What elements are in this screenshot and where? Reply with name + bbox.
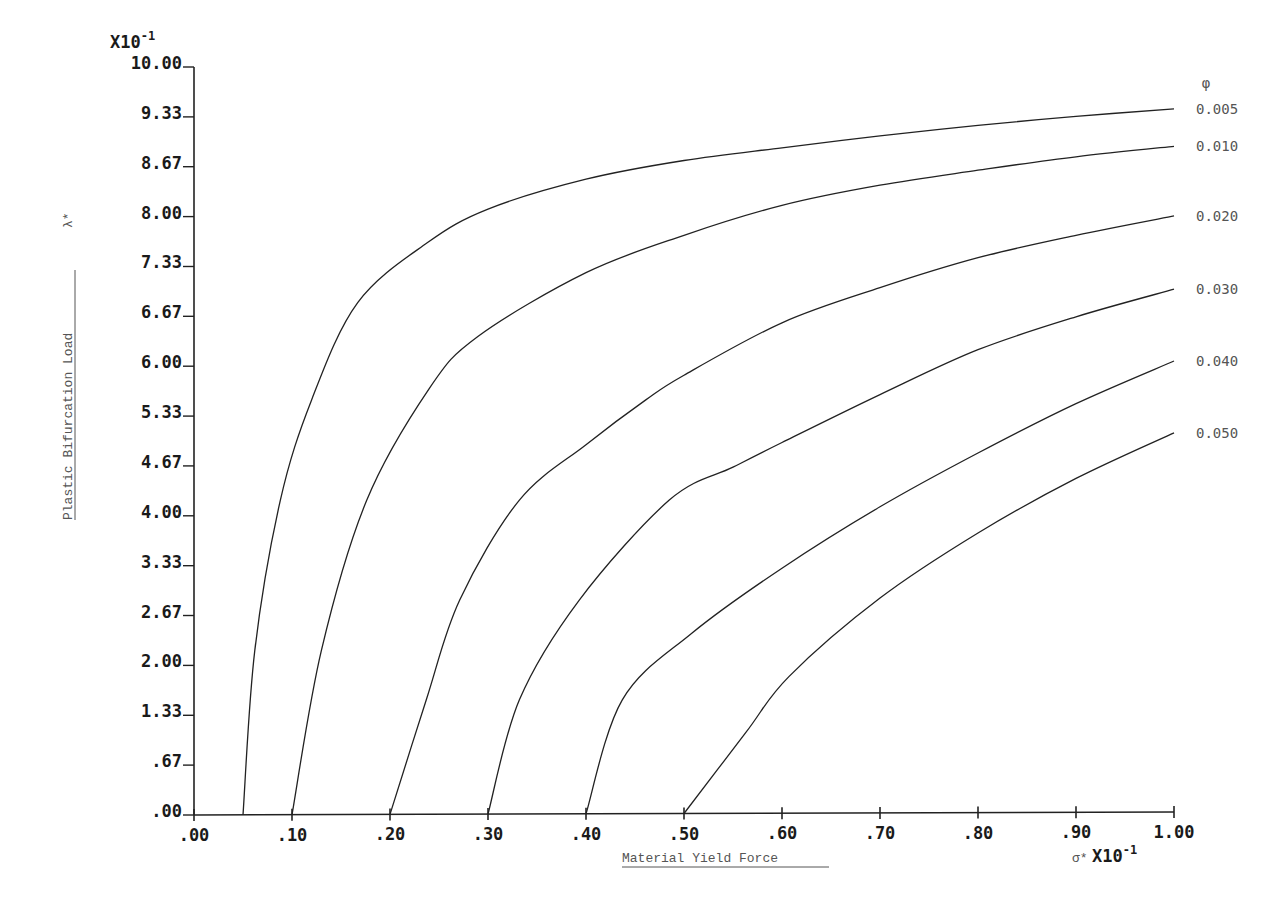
x-axis-multiplier: X10-1 xyxy=(1092,843,1137,866)
y-tick-label: 5.33 xyxy=(141,402,182,422)
y-tick-label: 6.67 xyxy=(141,302,182,322)
curve-phi-0.010 xyxy=(292,146,1174,814)
y-tick-label: 2.00 xyxy=(141,651,182,671)
x-tick-label: .30 xyxy=(473,824,504,844)
legend-labels: 0.0050.0100.0200.0300.0400.050 xyxy=(1196,101,1238,441)
curve-phi-0.040 xyxy=(586,361,1174,814)
x-tick-label: .20 xyxy=(375,824,406,844)
y-axis-ticks: .00.671.332.002.673.334.004.675.336.006.… xyxy=(131,53,194,821)
legend-label-phi-0.030: 0.030 xyxy=(1196,281,1238,297)
x-axis-title: Material Yield Force xyxy=(622,851,778,866)
y-tick-label: 7.33 xyxy=(141,252,182,272)
legend-label-phi-0.050: 0.050 xyxy=(1196,425,1238,441)
y-tick-label: 10.00 xyxy=(131,53,182,73)
y-tick-label: 4.00 xyxy=(141,502,182,522)
x-tick-label: .40 xyxy=(571,824,602,844)
x-tick-label: .60 xyxy=(767,823,798,843)
x-axis-symbol: σ* xyxy=(1072,851,1088,866)
curve-phi-0.050 xyxy=(684,433,1174,814)
curve-phi-0.020 xyxy=(390,216,1174,815)
x-tick-label: .10 xyxy=(277,825,308,845)
y-axis-symbol: λ* xyxy=(61,212,76,228)
y-tick-label: 4.67 xyxy=(141,452,182,472)
x-tick-label: .70 xyxy=(865,823,896,843)
y-tick-label: 3.33 xyxy=(141,552,182,572)
legend-label-phi-0.040: 0.040 xyxy=(1196,353,1238,369)
legend-label-phi-0.005: 0.005 xyxy=(1196,101,1238,117)
legend-label-phi-0.020: 0.020 xyxy=(1196,208,1238,224)
y-axis-multiplier: X10-1 xyxy=(110,29,155,52)
x-tick-label: .90 xyxy=(1061,822,1092,842)
y-tick-label: 8.00 xyxy=(141,203,182,223)
y-tick-label: 6.00 xyxy=(141,352,182,372)
x-tick-label: .00 xyxy=(179,825,210,845)
y-axis-title: Plastic Bifurcation Load xyxy=(61,333,76,520)
x-tick-label: .50 xyxy=(669,824,700,844)
x-tick-label: 1.00 xyxy=(1154,822,1195,842)
y-tick-label: 2.67 xyxy=(141,602,182,622)
curve-series-group xyxy=(243,109,1174,815)
y-tick-label: 1.33 xyxy=(141,701,182,721)
legend-title-phi: φ xyxy=(1202,75,1210,91)
y-tick-label: 8.67 xyxy=(141,153,182,173)
legend-label-phi-0.010: 0.010 xyxy=(1196,138,1238,154)
y-tick-label: .67 xyxy=(151,751,182,771)
bifurcation-load-chart: .00.671.332.002.673.334.004.675.336.006.… xyxy=(0,0,1286,916)
curve-phi-0.005 xyxy=(243,109,1174,815)
y-tick-label: 9.33 xyxy=(141,103,182,123)
y-tick-label: .00 xyxy=(151,801,182,821)
curve-phi-0.030 xyxy=(488,289,1174,814)
x-tick-label: .80 xyxy=(963,823,994,843)
